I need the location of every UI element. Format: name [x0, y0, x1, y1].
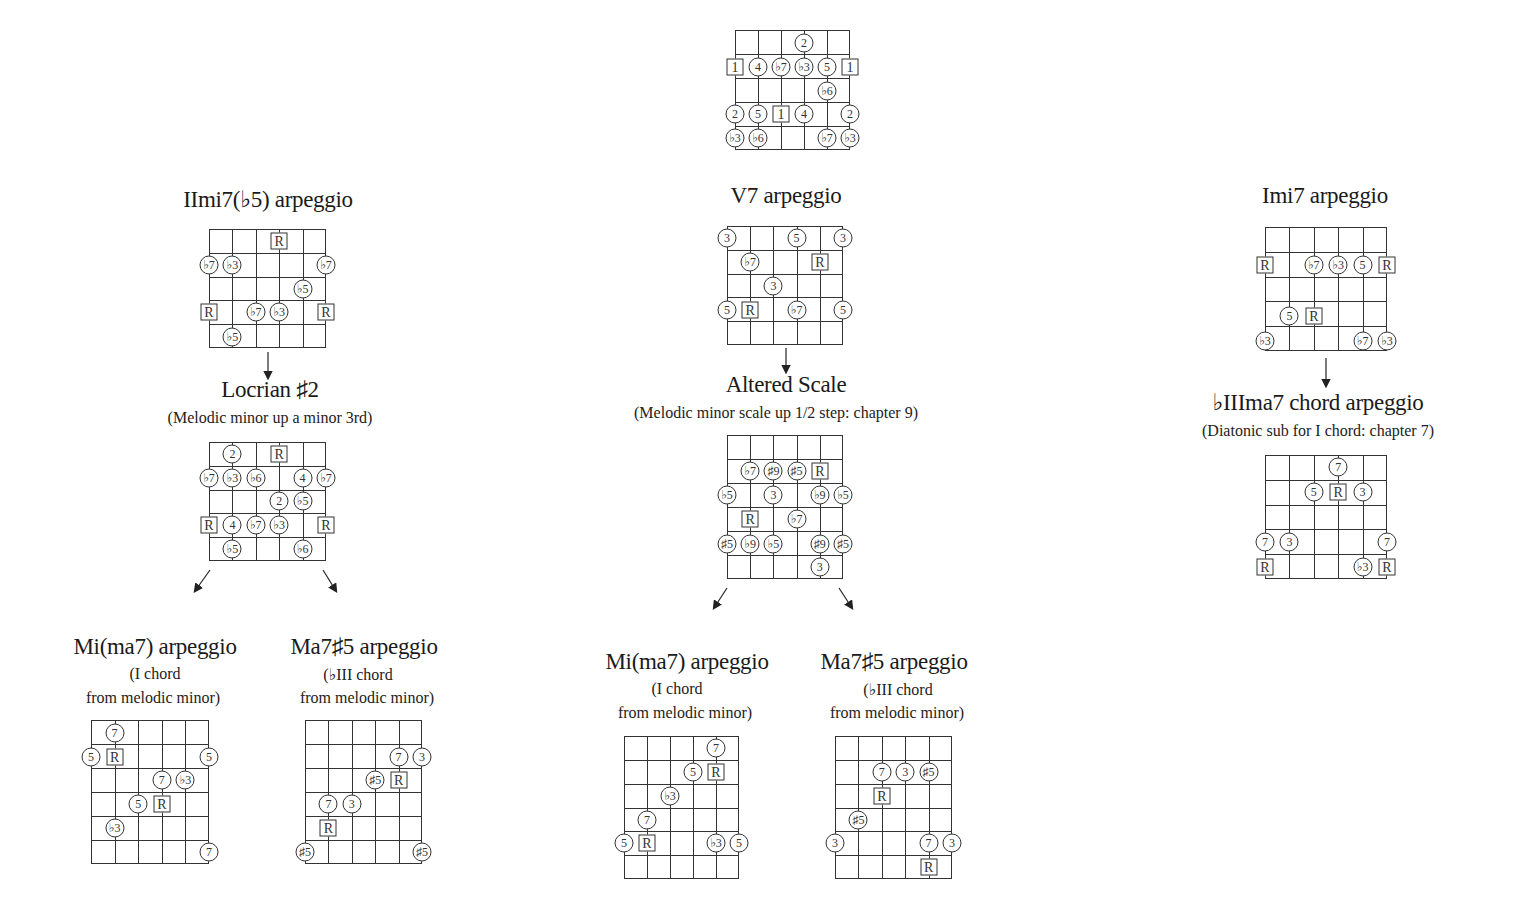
scale-degree-marker: 5 [818, 58, 837, 77]
scale-degree-marker: ♭5 [223, 540, 242, 559]
fret-line [728, 483, 842, 484]
root-note-marker: R [1379, 257, 1396, 274]
fret-line [1266, 529, 1386, 530]
fret-line [625, 831, 738, 832]
scale-degree-marker: ♭5 [834, 486, 853, 505]
scale-degree-marker: 5 [684, 763, 703, 782]
string-line [781, 31, 782, 149]
scale-degree-marker: 3 [764, 486, 783, 505]
fret-line [1266, 301, 1386, 302]
scale-degree-marker: 5 [1304, 483, 1323, 502]
scale-degree-marker: ♭3 [726, 129, 745, 148]
scale-degree-marker: 7 [152, 771, 171, 790]
scale-degree-marker: ♭7 [772, 58, 791, 77]
scale-degree-marker: ♯5 [718, 535, 737, 554]
scale-degree-marker: 7 [1256, 533, 1275, 552]
fret-line [736, 126, 849, 127]
root-note-marker: R [639, 835, 656, 852]
root-note-marker: R [1305, 308, 1322, 325]
scale-degree-marker: 3 [342, 795, 361, 814]
fret-line [306, 840, 421, 841]
flow-arrow [195, 570, 210, 591]
root-note-marker: R [920, 859, 937, 876]
v7-arpeggio-title: V7 arpeggio [730, 183, 841, 209]
flow-arrow [323, 570, 336, 591]
scale-degree-marker: ♯5 [919, 763, 938, 782]
scale-degree-marker: ♭7 [787, 510, 806, 529]
scale-degree-marker: ♭7 [741, 462, 760, 481]
left-ma7sharp5-subtitle-line3: from melodic minor) [300, 689, 434, 707]
fret-line [736, 54, 849, 55]
scale-degree-marker: ♭6 [749, 129, 768, 148]
scale-degree-marker: ♭7 [1304, 256, 1323, 275]
left-ma7sharp5-title: Ma7♯5 arpeggio [290, 634, 437, 660]
scale-degree-marker: ♭3 [795, 58, 814, 77]
root-note-marker: R [742, 511, 759, 528]
fret-line [92, 744, 208, 745]
scale-degree-marker: ♭3 [1353, 558, 1372, 577]
scale-degree-marker: 7 [105, 724, 124, 743]
string-line [1314, 228, 1315, 350]
fret-line [306, 768, 421, 769]
fret-line [728, 297, 842, 298]
scale-degree-marker: ♭6 [293, 540, 312, 559]
scale-degree-marker: 5 [718, 301, 737, 320]
root-note-marker: R [811, 254, 828, 271]
center-mima7-arpeggio-fretboard-grid [624, 736, 739, 879]
fret-line [836, 808, 951, 809]
scale-degree-marker: 7 [707, 739, 726, 758]
root-note-marker: R [1330, 484, 1347, 501]
fret-line [210, 537, 325, 538]
scale-degree-marker: ♭3 [176, 771, 195, 790]
scale-degree-marker: 5 [1353, 256, 1372, 275]
fret-line [92, 768, 208, 769]
scale-degree-marker: ♭7 [246, 516, 265, 535]
fret-line [836, 831, 951, 832]
locrian-sharp2-subtitle: (Melodic minor up a minor 3rd) [168, 409, 373, 427]
scale-degree-marker: ♭5 [293, 492, 312, 511]
biiima7-arpeggio-subtitle: (Diatonic sub for I chord: chapter 7) [1202, 422, 1434, 440]
scale-degree-marker: ♭3 [223, 469, 242, 488]
scale-degree-marker: 4 [795, 105, 814, 124]
locrian-sharp2-title: Locrian ♯2 [221, 377, 318, 403]
scale-degree-marker: ♭7 [818, 129, 837, 148]
scale-degree-marker: 3 [718, 229, 737, 248]
fret-line [728, 274, 842, 275]
fret-line [728, 555, 842, 556]
flow-arrow [839, 588, 852, 608]
scale-degree-marker: 3 [413, 748, 432, 767]
scale-degree-marker: 3 [826, 834, 845, 853]
fret-line [1266, 277, 1386, 278]
altered-scale-fretboard-grid [727, 435, 843, 579]
scale-degree-marker: ♭6 [818, 82, 837, 101]
scale-degree-marker: 4 [223, 516, 242, 535]
center-mima7-subtitle-line3: from melodic minor) [618, 704, 752, 722]
root-note-marker: R [1379, 559, 1396, 576]
fret-line [1266, 480, 1386, 481]
scale-degree-marker: ♯9 [764, 462, 783, 481]
scale-degree-marker: 7 [389, 748, 408, 767]
scale-degree-marker: ♭3 [841, 129, 860, 148]
fret-line [210, 324, 325, 325]
scale-degree-marker: ♭5 [718, 486, 737, 505]
fret-line [306, 816, 421, 817]
scale-degree-marker: ♯5 [787, 462, 806, 481]
altered-scale-subtitle: (Melodic minor scale up 1/2 step: chapte… [634, 404, 918, 422]
string-line [256, 443, 257, 560]
string-line [1289, 456, 1290, 578]
root-note-marker: R [153, 796, 170, 813]
left-mima7-title: Mi(ma7) arpeggio [73, 634, 236, 660]
scale-degree-marker: 2 [223, 445, 242, 464]
scale-degree-marker: ♯5 [834, 535, 853, 554]
scale-degree-marker: ♭3 [270, 516, 289, 535]
fret-line [836, 760, 951, 761]
scale-degree-marker: 7 [919, 834, 938, 853]
fret-line [1266, 505, 1386, 506]
scale-degree-marker: 3 [764, 277, 783, 296]
center-ma7sharp5-subtitle-line3: from melodic minor) [830, 704, 964, 722]
scale-degree-marker: 5 [730, 834, 749, 853]
left-ma7sharp5-subtitle-line2: (♭III chord [323, 665, 392, 684]
scale-degree-marker: ♭5 [223, 328, 242, 347]
string-line [1289, 228, 1290, 350]
scale-degree-marker: 7 [872, 763, 891, 782]
